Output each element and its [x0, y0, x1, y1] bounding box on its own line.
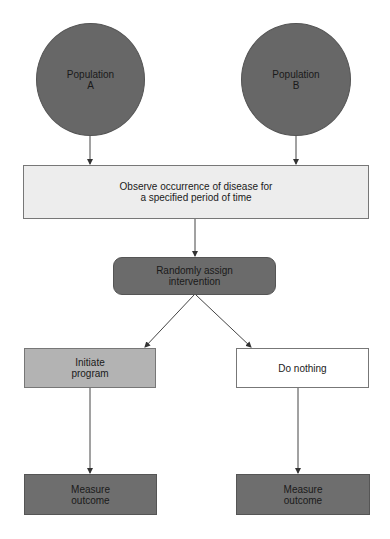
do-nothing-label: Do nothing — [278, 363, 326, 374]
measure-outcome-left-node: Measure outcome — [24, 474, 157, 515]
observe-label: Observe occurrence of disease for a spec… — [120, 181, 273, 203]
measure-outcome-right-node: Measure outcome — [236, 474, 370, 515]
do-nothing-node: Do nothing — [236, 348, 369, 388]
measure-outcome-right-label: Measure outcome — [284, 484, 323, 506]
randomize-label: Randomly assign intervention — [156, 265, 233, 287]
randomize-node: Randomly assign intervention — [113, 257, 276, 295]
population-b-label: Population B — [272, 69, 319, 91]
initiate-program-label: Initiate program — [71, 357, 108, 379]
population-b-node: Population B — [241, 23, 351, 136]
population-a-node: Population A — [36, 23, 145, 136]
population-a-label: Population A — [67, 69, 114, 91]
edge-randomize-initiate — [145, 295, 194, 347]
observe-node: Observe occurrence of disease for a spec… — [23, 165, 369, 219]
measure-outcome-left-label: Measure outcome — [71, 484, 110, 506]
initiate-program-node: Initiate program — [24, 348, 156, 388]
edge-randomize-donothing — [196, 295, 251, 347]
